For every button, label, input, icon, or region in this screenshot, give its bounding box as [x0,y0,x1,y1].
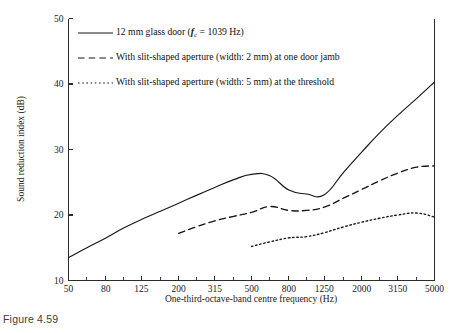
x-tick-label-5000: 5000 [425,284,444,294]
series-line-2 [252,213,435,246]
x-tick-label-200: 200 [172,284,187,294]
x-tick-label-125: 125 [134,284,149,294]
data-series-group [69,82,435,258]
y-tick-label-50: 50 [54,14,64,24]
y-tick-label-10: 10 [54,276,64,286]
legend-label-0: 12 mm glass door (fc = 1039 Hz) [116,26,244,39]
y-tick-label-30: 30 [54,145,64,155]
series-line-0 [69,82,435,258]
x-tick-label-80: 80 [101,284,111,294]
legend-label-1: With slit-shaped aperture (width: 2 mm) … [116,51,340,63]
x-tick-label-315: 315 [208,284,223,294]
y-tick-label-20: 20 [54,210,64,220]
chart-canvas: 1020304050 50801252003155008001250200031… [0,0,459,333]
series-line-1 [179,166,435,233]
x-tick-label-500: 500 [244,284,259,294]
chart-legend: 12 mm glass door (fc = 1039 Hz)With slit… [78,26,340,88]
legend-label-2: With slit-shaped aperture (width: 5 mm) … [116,76,334,88]
x-tick-label-1250: 1250 [315,284,334,294]
x-tick-label-2000: 2000 [352,284,371,294]
x-tick-label-3150: 3150 [388,284,407,294]
y-tick-label-40: 40 [54,79,64,89]
figure-caption: Figure 4.59 [3,313,58,325]
axis-title-x: One-third-octave-band centre frequency (… [165,294,337,305]
x-tick-label-50: 50 [64,284,74,294]
y-axis-ticks: 1020304050 [54,14,73,286]
x-axis-label: One-third-octave-band centre frequency (… [165,294,337,305]
axis-title-y: Sound reduction index (dB) [16,96,27,202]
y-axis-label: Sound reduction index (dB) [16,96,27,202]
x-axis-ticks: 50801252003155008001250200031505000 [64,276,445,294]
x-tick-label-800: 800 [282,284,297,294]
figure-container: 1020304050 50801252003155008001250200031… [0,0,459,333]
